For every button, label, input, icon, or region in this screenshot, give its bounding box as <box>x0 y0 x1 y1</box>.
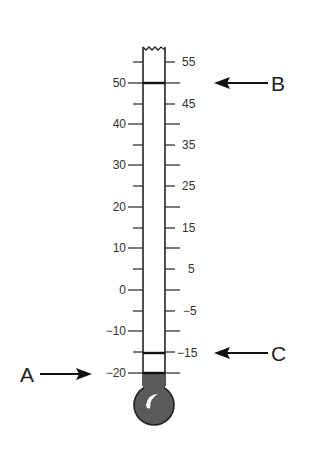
right-scale-labels: 55 45 35 25 15 5 −5 −15 <box>177 55 198 360</box>
left-scale <box>128 62 143 373</box>
right-label: 55 <box>182 55 196 69</box>
left-label: −10 <box>106 324 127 338</box>
left-label: −20 <box>106 366 127 380</box>
left-label: 50 <box>113 76 127 90</box>
thermometer-tube <box>143 47 165 386</box>
right-label: 35 <box>182 138 196 152</box>
left-label: 40 <box>113 117 127 131</box>
right-label: 5 <box>188 262 195 276</box>
right-label: 25 <box>182 179 196 193</box>
marker-a-letter: A <box>20 363 34 386</box>
marker-b: B <box>214 72 285 95</box>
thermometer-liquid <box>134 373 174 425</box>
right-label: −5 <box>183 304 197 318</box>
right-scale <box>165 62 180 373</box>
right-label: 15 <box>182 221 196 235</box>
marker-a: A <box>20 363 92 386</box>
left-label: 30 <box>113 158 127 172</box>
thermometer-diagram: 50 40 30 20 10 0 −10 −20 55 45 35 25 15 … <box>0 0 311 461</box>
broken-top-icon <box>143 47 165 50</box>
left-label: 20 <box>113 200 127 214</box>
left-label: 10 <box>113 241 127 255</box>
left-label: 0 <box>119 283 126 297</box>
left-scale-labels: 50 40 30 20 10 0 −10 −20 <box>106 76 127 380</box>
marker-c-letter: C <box>271 342 286 365</box>
marker-b-letter: B <box>271 72 285 95</box>
right-label: 45 <box>182 97 196 111</box>
right-label: −15 <box>177 346 198 360</box>
marker-c: C <box>214 342 286 365</box>
